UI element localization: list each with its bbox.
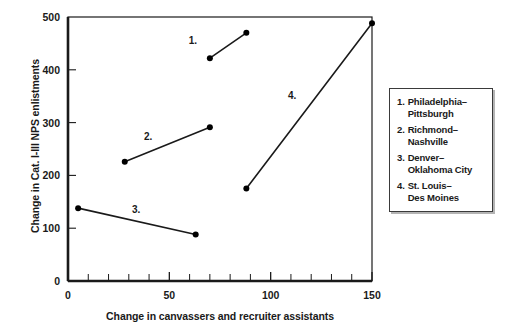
series-line-3 xyxy=(75,205,199,237)
legend-item-number: 1. xyxy=(397,96,408,119)
legend-item-number: 3. xyxy=(397,152,408,175)
legend-item-4: 4.St. Louis–Des Moines xyxy=(397,180,487,203)
chart-figure: Change in Cat. I-III NPS enlistments Cha… xyxy=(0,0,511,333)
legend: 1.Philadelphia–Pittsburgh2.Richmond–Nash… xyxy=(389,88,493,212)
series-line-2 xyxy=(122,124,213,164)
legend-item-number: 4. xyxy=(397,180,408,203)
legend-item-label: Denver–Oklahoma City xyxy=(408,152,487,175)
series-line-4 xyxy=(243,20,375,191)
legend-item-label: Philadelphia–Pittsburgh xyxy=(408,96,487,119)
legend-item-number: 2. xyxy=(397,124,408,147)
legend-item-2: 2.Richmond–Nashville xyxy=(397,124,487,147)
legend-item-1: 1.Philadelphia–Pittsburgh xyxy=(397,96,487,119)
series-line-1 xyxy=(207,30,249,61)
legend-item-3: 3.Denver–Oklahoma City xyxy=(397,152,487,175)
legend-item-label: Richmond–Nashville xyxy=(408,124,487,147)
legend-item-label: St. Louis–Des Moines xyxy=(408,180,487,203)
